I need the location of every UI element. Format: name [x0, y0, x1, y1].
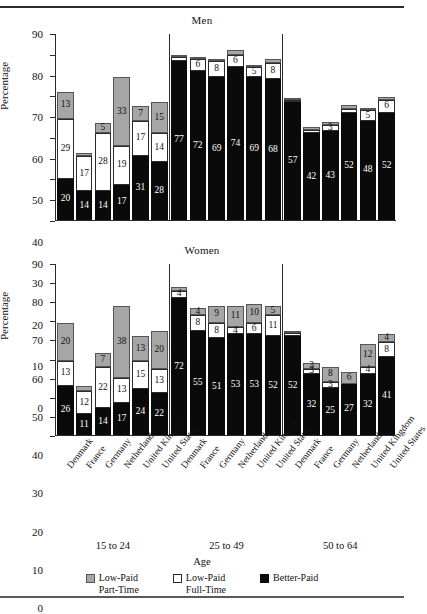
bar-france[interactable]: 1211 [76, 264, 93, 435]
bar-value-label: 9 [209, 310, 224, 320]
bar-france[interactable]: 1714 [76, 34, 93, 220]
bar-series-men: 1329201714528143319177173115142877672869… [56, 34, 396, 220]
bar-united-states[interactable]: 652 [378, 34, 395, 220]
legend-item-white[interactable]: Low-PaidFull-Time [173, 572, 226, 595]
bar-denmark[interactable]: 472 [171, 264, 188, 435]
bar-germany[interactable]: 343 [322, 34, 339, 220]
bar-segment-low-paid-full-time: 11 [265, 315, 282, 336]
bar-united-states[interactable]: 201322 [151, 264, 168, 435]
bar-value-label: 5 [96, 123, 111, 133]
bar-segment-low-paid-part-time: 5 [265, 306, 282, 316]
bar-segment-better-paid: 20 [57, 179, 74, 220]
bar-netherlands[interactable]: 674 [227, 34, 244, 220]
y-tick: 70 [50, 302, 55, 303]
bar-france[interactable]: 4855 [190, 264, 207, 435]
y-tick: 50 [50, 117, 55, 118]
bar-value-label: 6 [191, 60, 206, 70]
bar-france[interactable]: 3332 [303, 264, 320, 435]
y-tick: 40 [50, 360, 55, 361]
y-tick-label: 70 [32, 335, 43, 346]
bar-value-label: 12 [361, 350, 376, 360]
bar-segment-low-paid-full-time: 13 [57, 361, 74, 386]
legend-label-line1: Low-Paid [186, 572, 226, 584]
bar-segment-low-paid-full-time: 17 [76, 156, 93, 191]
x-tick-cell: Netherlands [113, 462, 132, 542]
bar-group-50-to-64: 574234352548652 [282, 34, 396, 220]
bar-value-label: 77 [172, 136, 187, 146]
bar-france[interactable]: 42 [303, 34, 320, 220]
bar-value-label: 17 [114, 198, 129, 208]
bar-segment-low-paid-full-time: 6 [227, 55, 244, 67]
bar-united-states[interactable]: 868 [265, 34, 282, 220]
bar-segment-low-paid-full-time: 19 [113, 146, 130, 185]
bar-segment-better-paid: 52 [265, 336, 282, 435]
y-tick-label: 30 [32, 488, 43, 499]
bar-segment-low-paid-full-time: 17 [132, 121, 149, 156]
bar-value-label: 8 [323, 369, 338, 379]
bar-germany[interactable]: 72214 [95, 264, 112, 435]
bar-denmark[interactable]: 77 [171, 34, 188, 220]
bar-segment-low-paid-part-time: 7 [132, 106, 149, 120]
bar-germany[interactable]: 9851 [208, 264, 225, 435]
legend-label: Low-PaidPart-Time [99, 572, 139, 595]
bar-segment-better-paid: 52 [378, 113, 395, 220]
legend-label: Better-Paid [273, 572, 318, 584]
bar-germany[interactable]: 8325 [322, 264, 339, 435]
bar-value-label: 33 [114, 107, 129, 117]
bar-segment-better-paid: 53 [246, 334, 263, 435]
bar-germany[interactable]: 869 [208, 34, 225, 220]
bar-united-kingdom[interactable]: 12432 [360, 264, 377, 435]
bar-united-states[interactable]: 151428 [151, 34, 168, 220]
bar-segment-better-paid: 42 [303, 133, 320, 220]
bar-value-label: 12 [77, 398, 92, 408]
bar-germany[interactable]: 52814 [95, 34, 112, 220]
x-label-group: DenmarkFranceGermanyNetherlandsUnited Ki… [56, 462, 170, 542]
x-tick-cell: Netherlands [340, 462, 359, 542]
bar-segment-low-paid-full-time: 6 [190, 59, 207, 71]
bar-united-states[interactable]: 4841 [378, 264, 395, 435]
bar-segment-low-paid-full-time: 8 [265, 63, 282, 80]
bar-united-kingdom[interactable]: 569 [246, 34, 263, 220]
bar-value-label: 42 [304, 172, 319, 182]
legend-swatch-icon [260, 574, 269, 583]
legend-item-gray[interactable]: Low-PaidPart-Time [86, 572, 139, 595]
bar-denmark[interactable]: 201326 [57, 264, 74, 435]
bar-france[interactable]: 672 [190, 34, 207, 220]
legend-item-black[interactable]: Better-Paid [260, 572, 318, 595]
bar-series-women: 2013261211722143813171315242013224724855… [56, 264, 396, 435]
bar-segment-better-paid: 14 [95, 408, 112, 435]
bar-value-label: 52 [266, 381, 281, 391]
bar-united-kingdom[interactable]: 548 [360, 34, 377, 220]
bar-united-states[interactable]: 51152 [265, 264, 282, 435]
bar-segment-low-paid-full-time: 29 [57, 119, 74, 179]
bar-segment-low-paid-part-time: 20 [151, 331, 168, 369]
bar-segment-better-paid: 55 [190, 331, 207, 436]
bar-denmark[interactable]: 52 [284, 264, 301, 435]
bar-value-label: 8 [266, 66, 281, 76]
x-tick-cell: United Kingdom [245, 462, 264, 542]
bar-netherlands[interactable]: 11453 [227, 264, 244, 435]
bar-segment-low-paid-full-time: 6 [378, 100, 395, 112]
bar-value-label: 19 [114, 160, 129, 170]
panel-women: Women Percentage 0102030405060708090 201… [0, 244, 404, 459]
legend: Low-PaidPart-TimeLow-PaidFull-TimeBetter… [0, 572, 404, 595]
bar-value-label: 41 [379, 391, 394, 401]
x-tick-cell: France [302, 462, 321, 542]
bar-netherlands[interactable]: 627 [341, 264, 358, 435]
bar-united-kingdom[interactable]: 10653 [246, 264, 263, 435]
bar-segment-better-paid: 17 [113, 185, 130, 220]
bar-value-label: 5 [361, 111, 376, 121]
bar-united-kingdom[interactable]: 71731 [132, 34, 149, 220]
bar-denmark[interactable]: 132920 [57, 34, 74, 220]
y-tick: 90 [50, 34, 55, 35]
bar-united-kingdom[interactable]: 131524 [132, 264, 149, 435]
bar-netherlands[interactable]: 331917 [113, 34, 130, 220]
bar-segment-low-paid-full-time: 13 [113, 378, 130, 403]
y-tick: 30 [50, 159, 55, 160]
bar-value-label: 51 [209, 382, 224, 392]
bar-netherlands[interactable]: 381317 [113, 264, 130, 435]
legend-label-line2: Full-Time [186, 584, 226, 596]
bar-segment-low-paid-full-time: 8 [208, 61, 225, 78]
bar-denmark[interactable]: 57 [284, 34, 301, 220]
bar-netherlands[interactable]: 52 [341, 34, 358, 220]
